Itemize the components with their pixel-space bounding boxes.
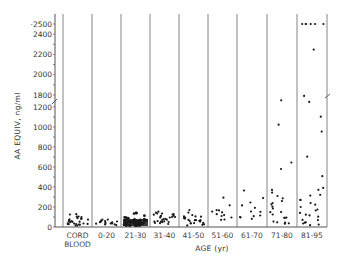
data-point xyxy=(153,214,155,216)
data-points xyxy=(67,23,325,227)
data-point xyxy=(317,189,319,191)
data-point xyxy=(157,211,159,213)
data-point xyxy=(222,197,224,199)
y-tick-label: 2400 xyxy=(33,30,52,39)
data-point xyxy=(87,219,89,221)
y-tick-label: 600 xyxy=(38,163,53,172)
data-point xyxy=(107,219,109,221)
data-point xyxy=(318,224,320,226)
data-point xyxy=(230,216,232,218)
data-point xyxy=(223,214,225,216)
data-point xyxy=(310,23,312,25)
data-point xyxy=(101,219,103,221)
data-point xyxy=(67,222,69,224)
data-point xyxy=(115,224,117,226)
data-point xyxy=(254,207,256,209)
data-point xyxy=(250,210,252,212)
data-point xyxy=(272,220,274,222)
data-point xyxy=(308,101,310,103)
data-point xyxy=(70,220,72,222)
data-point xyxy=(195,219,197,221)
data-point xyxy=(155,212,157,214)
data-point xyxy=(276,195,278,197)
data-point xyxy=(203,223,205,225)
data-point xyxy=(191,214,193,216)
data-point xyxy=(76,216,78,218)
data-point xyxy=(290,161,292,163)
data-point xyxy=(303,95,305,97)
data-point xyxy=(221,211,223,213)
data-point xyxy=(104,223,106,225)
data-point xyxy=(271,192,273,194)
data-point xyxy=(280,168,282,170)
y-tick-label: 800 xyxy=(38,143,53,152)
data-point xyxy=(280,211,282,213)
data-point xyxy=(243,189,245,191)
data-point xyxy=(68,219,70,221)
data-point xyxy=(160,216,162,218)
data-point xyxy=(284,217,286,219)
data-point xyxy=(216,213,218,215)
data-point xyxy=(143,214,146,217)
data-point xyxy=(309,224,311,226)
data-point xyxy=(160,221,162,223)
data-point xyxy=(216,209,218,211)
data-point xyxy=(194,215,196,217)
data-point xyxy=(278,124,280,126)
data-point xyxy=(116,220,118,222)
data-point xyxy=(87,223,89,225)
data-point xyxy=(229,204,231,206)
data-point xyxy=(249,201,251,203)
y-axis: 0200400600800100012001800200022002400·25… xyxy=(31,14,57,232)
data-point xyxy=(198,220,200,222)
x-category-label: 71-80 xyxy=(271,231,293,240)
data-point xyxy=(111,221,113,223)
y-tick-label: 1200 xyxy=(33,103,52,112)
x-category-labels: CORDBLOOD0-2021-3031-4041-5051-6061-7071… xyxy=(64,231,323,249)
data-point xyxy=(321,175,323,177)
data-point xyxy=(253,215,255,217)
data-point xyxy=(183,215,185,217)
data-point xyxy=(75,224,77,226)
x-category-label: 51-60 xyxy=(212,231,234,240)
data-point xyxy=(305,221,307,223)
data-point xyxy=(305,23,307,25)
data-point xyxy=(223,218,225,220)
data-point xyxy=(259,214,261,216)
data-point xyxy=(322,23,324,25)
y-tick-label: ·2500 xyxy=(31,20,53,29)
data-point xyxy=(99,221,101,223)
data-point xyxy=(310,202,312,204)
data-point xyxy=(123,216,126,219)
data-point xyxy=(251,218,253,220)
data-point xyxy=(302,222,304,224)
data-point xyxy=(193,222,195,224)
x-category-label: 31-40 xyxy=(154,231,176,240)
data-point xyxy=(190,222,192,224)
y-tick-label: 1000 xyxy=(33,123,52,132)
data-point xyxy=(317,216,319,218)
data-point xyxy=(281,200,283,202)
data-point xyxy=(272,202,274,204)
data-point xyxy=(272,213,274,215)
y-tick-label: 1800 xyxy=(33,91,52,100)
dense-cluster xyxy=(123,219,148,226)
data-point xyxy=(239,216,241,218)
x-category-label: 21-30 xyxy=(125,231,147,240)
data-point xyxy=(284,222,286,224)
x-category-label: 81-95 xyxy=(301,231,323,240)
data-point xyxy=(317,219,319,221)
data-point xyxy=(218,209,220,211)
data-point xyxy=(69,213,71,215)
data-point xyxy=(188,209,190,211)
scatter-chart: 0200400600800100012001800200022002400·25… xyxy=(0,0,339,264)
data-point xyxy=(135,211,138,214)
data-point xyxy=(315,209,317,211)
x-category-label: 41-50 xyxy=(183,231,205,240)
data-point xyxy=(79,224,81,226)
data-point xyxy=(220,219,222,221)
data-point xyxy=(241,204,243,206)
data-point xyxy=(308,214,310,216)
data-point xyxy=(301,219,303,221)
data-point xyxy=(262,197,264,199)
